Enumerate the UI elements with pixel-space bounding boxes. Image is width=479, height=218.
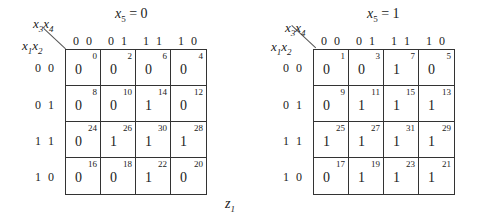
cell-index: 19 — [371, 159, 380, 169]
kmap-cell: 120 — [171, 86, 206, 122]
cell-index: 10 — [123, 87, 132, 97]
kmap-cell: 231 — [384, 158, 419, 194]
kmap-cell: 131 — [419, 86, 454, 122]
cell-index: 25 — [336, 123, 345, 133]
cell-index: 4 — [199, 51, 204, 61]
kmap-cell: 180 — [101, 158, 136, 194]
col-header: 0 1 — [349, 34, 384, 49]
kmap-cell: 111 — [349, 86, 384, 122]
cell-value: 1 — [393, 134, 400, 150]
x2-sub: 2 — [38, 46, 43, 56]
row-var-label: x1x2 — [22, 38, 43, 56]
kmap-cell: 30 — [349, 50, 384, 86]
cell-value: 0 — [428, 62, 435, 78]
cell-index: 23 — [406, 159, 415, 169]
col-header: 1 0 — [419, 34, 454, 49]
cell-value: 1 — [428, 134, 435, 150]
cell-index: 18 — [123, 159, 132, 169]
cell-index: 15 — [406, 87, 415, 97]
kmap-cell: 20 — [101, 50, 136, 86]
kmap-cell: 40 — [171, 50, 206, 86]
kmap-cell: 90 — [314, 86, 349, 122]
cell-index: 9 — [341, 87, 346, 97]
cell-value: 1 — [145, 98, 152, 114]
kmap-cell: 281 — [171, 122, 206, 158]
kmap-cell: 240 — [66, 122, 101, 158]
kmap-cell: 251 — [314, 122, 349, 158]
row-header: 1 0 — [274, 170, 304, 185]
col-header: 1 0 — [171, 34, 206, 49]
x4-sub: 4 — [49, 24, 54, 34]
row-header: 0 1 — [274, 98, 304, 113]
cell-value: 1 — [145, 170, 152, 186]
kmap-cell: 170 — [314, 158, 349, 194]
kmap-grid: 00 20 60 40 80 100 141 120 240 261 301 2… — [65, 49, 207, 195]
cell-value: 0 — [75, 170, 82, 186]
kmap-cell: 10 — [314, 50, 349, 86]
title-eq: = 0 — [126, 6, 148, 21]
cell-index: 27 — [371, 123, 380, 133]
cell-value: 1 — [323, 134, 330, 150]
cell-index: 8 — [93, 87, 98, 97]
cell-index: 1 — [341, 51, 346, 61]
row-header: 0 0 — [274, 61, 304, 76]
cell-value: 1 — [145, 134, 152, 150]
cell-value: 0 — [358, 62, 365, 78]
cell-index: 26 — [123, 123, 132, 133]
cell-value: 1 — [428, 98, 435, 114]
cell-value: 1 — [358, 98, 365, 114]
row-header: 1 1 — [26, 134, 56, 149]
kmap-cell: 60 — [136, 50, 171, 86]
cell-value: 0 — [323, 170, 330, 186]
cell-index: 2 — [128, 51, 133, 61]
col-header: 1 1 — [136, 34, 171, 49]
col-header: 0 1 — [101, 34, 136, 49]
kmap-cell: 160 — [66, 158, 101, 194]
function-label: z1 — [225, 196, 235, 214]
row-header: 0 1 — [26, 98, 56, 113]
kmap-cell: 311 — [384, 122, 419, 158]
cell-index: 16 — [88, 159, 97, 169]
kmap-cell: 291 — [419, 122, 454, 158]
cell-value: 1 — [358, 170, 365, 186]
row-var-label: x1x2 — [271, 39, 292, 57]
cell-value: 0 — [75, 62, 82, 78]
x4-sub: 4 — [301, 28, 306, 38]
kmap-grid: 10 30 71 50 90 111 151 131 251 271 311 2… — [313, 49, 455, 195]
cell-value: 1 — [428, 170, 435, 186]
cell-value: 0 — [110, 62, 117, 78]
kmap-x5-0: x5 = 0 x3x4 x1x2 0 0 0 1 1 1 1 0 0 0 0 1… — [0, 0, 240, 218]
kmap-cell: 50 — [419, 50, 454, 86]
cell-index: 5 — [447, 51, 452, 61]
cell-value: 1 — [393, 170, 400, 186]
cell-index: 14 — [158, 87, 167, 97]
cell-value: 0 — [180, 98, 187, 114]
cell-index: 21 — [442, 159, 451, 169]
cell-index: 7 — [411, 51, 416, 61]
cell-index: 0 — [93, 51, 98, 61]
title-eq: = 1 — [378, 6, 400, 21]
kmap-cell: 261 — [101, 122, 136, 158]
cell-value: 1 — [110, 134, 117, 150]
row-header: 0 0 — [26, 61, 56, 76]
kmap-cell: 301 — [136, 122, 171, 158]
kmap-cell: 71 — [384, 50, 419, 86]
kmap-cell: 80 — [66, 86, 101, 122]
kmap-cell: 271 — [349, 122, 384, 158]
kmap-cell: 200 — [171, 158, 206, 194]
cell-value: 0 — [145, 62, 152, 78]
cell-index: 6 — [163, 51, 168, 61]
cell-index: 12 — [194, 87, 203, 97]
cell-value: 0 — [323, 98, 330, 114]
kmap-cell: 00 — [66, 50, 101, 86]
cell-value: 0 — [110, 170, 117, 186]
cell-index: 17 — [336, 159, 345, 169]
row-header: 1 1 — [274, 134, 304, 149]
cell-value: 1 — [393, 62, 400, 78]
kmap-x5-1: x5 = 1 x3x4 x1x2 0 0 0 1 1 1 1 0 0 0 0 1… — [248, 0, 479, 218]
map-title: x5 = 1 — [367, 6, 400, 24]
x2-sub: 2 — [287, 47, 292, 57]
cell-value: 1 — [393, 98, 400, 114]
cell-index: 3 — [376, 51, 381, 61]
cell-value: 0 — [75, 98, 82, 114]
